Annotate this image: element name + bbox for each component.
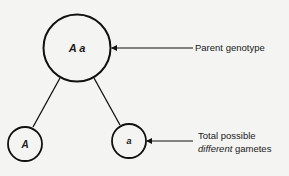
connector-line-right xyxy=(94,78,120,125)
gamete-label-a: a xyxy=(126,136,131,146)
different-emphasis: different xyxy=(198,143,232,154)
connector-line-left xyxy=(33,78,60,127)
gametes-annotation-line1: Total possible xyxy=(198,130,256,141)
parent-genotype-label: A a xyxy=(69,42,86,54)
gametes-annotation-line2: different gametes xyxy=(198,143,271,154)
gametes-word: gametes xyxy=(232,143,271,154)
gamete-label-A: A xyxy=(21,139,28,150)
parent-genotype-annotation: Parent genotype xyxy=(195,42,265,53)
